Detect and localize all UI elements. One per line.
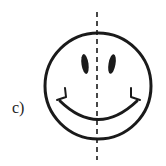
smile-left-dimple — [57, 88, 66, 100]
right-eye — [107, 54, 117, 75]
figure-label: c) — [12, 99, 24, 117]
smile-mouth — [60, 101, 137, 120]
face-outline — [45, 33, 151, 139]
smile-right-dimple — [131, 88, 140, 100]
smiley-symmetry-diagram: c) — [0, 0, 166, 166]
left-eye — [80, 54, 90, 75]
